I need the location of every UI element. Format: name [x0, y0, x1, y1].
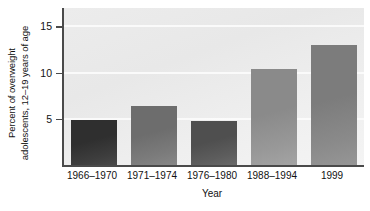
y-tick-label-15: 15: [26, 21, 52, 31]
x-axis-title: Year: [62, 188, 362, 199]
y-axis-title-line2: adolescents, 12–19 years of age: [18, 26, 31, 160]
gridline-15: [64, 25, 364, 27]
x-tick-label-4: 1999: [302, 170, 362, 181]
bar-1966-1970: [71, 120, 117, 165]
y-tick-label-5: 5: [26, 114, 52, 124]
y-axis-title-line1: Percent of overweight: [5, 48, 18, 138]
bar-1976-1980: [191, 121, 237, 165]
x-tick-label-1: 1971–1974: [122, 170, 182, 181]
bar-chart-figure: Percent of overweight adolescents, 12–19…: [0, 0, 370, 211]
y-axis-title: Percent of overweight adolescents, 12–19…: [1, 7, 35, 179]
bar-1999: [311, 45, 357, 165]
plot-area: [62, 8, 364, 167]
bar-1988-1994: [251, 69, 297, 165]
x-tick-label-3: 1988–1994: [242, 170, 302, 181]
x-tick-label-2: 1976–1980: [182, 170, 242, 181]
x-tick-label-0: 1966–1970: [62, 170, 122, 181]
bar-1971-1974: [131, 106, 177, 165]
y-tick-label-10: 10: [26, 68, 52, 78]
